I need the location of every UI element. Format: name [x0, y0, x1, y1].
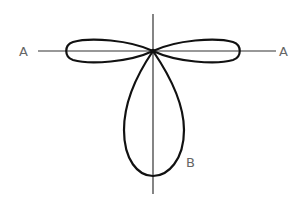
lobe-label-bottom: B	[186, 155, 195, 170]
radiation-pattern-diagram: A A B	[0, 0, 299, 200]
axis-label-right: A	[279, 44, 288, 59]
bottom-lobe	[124, 51, 184, 176]
axis-label-left: A	[19, 44, 28, 59]
origin-point	[151, 49, 155, 53]
